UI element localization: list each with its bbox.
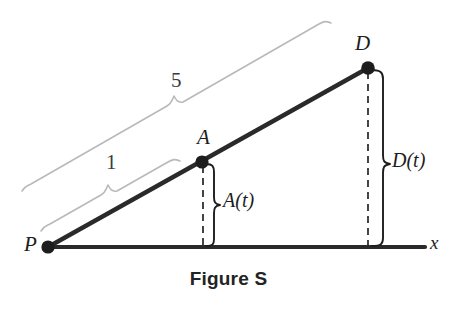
ray-p-to-d xyxy=(48,68,368,247)
height-brace-dt xyxy=(372,70,390,246)
height-brace-at xyxy=(206,164,220,246)
point-label-d: D xyxy=(355,33,370,54)
figure-drawing xyxy=(0,0,457,309)
figure-canvas: P A D x A(t) D(t) 5 1 Figure S xyxy=(0,0,457,309)
point-marker-d xyxy=(361,61,375,75)
axis-label-x: x xyxy=(430,233,438,252)
point-label-a: A xyxy=(197,127,210,148)
height-label-at: A(t) xyxy=(223,190,254,210)
point-marker-p xyxy=(41,240,54,253)
distance-label-5: 5 xyxy=(171,70,182,91)
height-label-dt: D(t) xyxy=(392,150,425,170)
point-marker-a xyxy=(195,155,208,168)
distance-label-1: 1 xyxy=(106,152,117,173)
point-label-p: P xyxy=(24,234,37,255)
distance-brace-5 xyxy=(22,22,331,191)
figure-caption: Figure S xyxy=(0,268,457,290)
